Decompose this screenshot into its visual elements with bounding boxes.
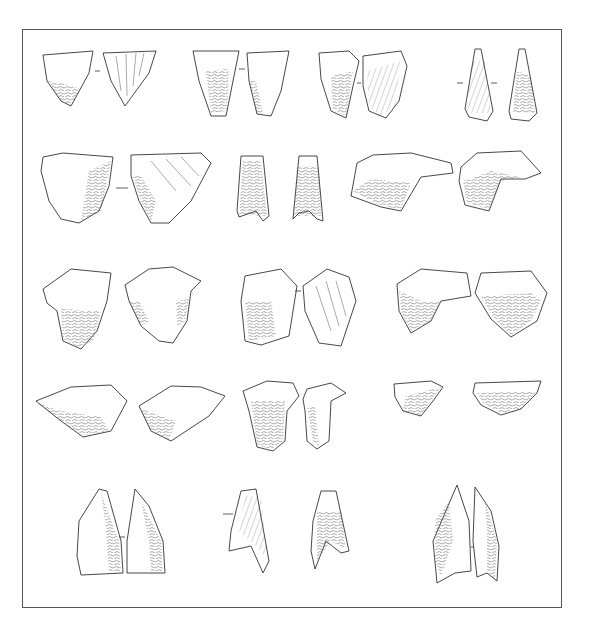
artifact-r1a2 <box>193 51 289 116</box>
artifact-r3a3 <box>397 269 547 337</box>
artifact-r5a3 <box>433 485 499 583</box>
artifact-r5a1 <box>77 489 165 575</box>
artifact-r4a3 <box>394 381 541 416</box>
artifact-r2a1 <box>41 153 211 223</box>
lithic-artifacts-illustration <box>23 30 563 609</box>
artifact-r4a1 <box>36 385 225 441</box>
artifact-r5a2 <box>223 489 349 573</box>
artifact-r2a2 <box>237 156 323 221</box>
artifact-r3a1 <box>43 267 201 349</box>
artifact-r1a4 <box>457 49 537 121</box>
artifact-r2a3 <box>351 151 541 211</box>
illustration-plate-frame <box>22 29 562 608</box>
artifact-r3a2 <box>241 269 356 346</box>
artifact-r4a2 <box>243 381 346 451</box>
artifact-r1a1 <box>43 51 156 106</box>
artifact-r1a3 <box>319 51 407 118</box>
